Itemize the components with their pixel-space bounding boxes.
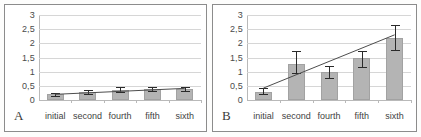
panel-letter-b: B [222,109,231,123]
x-axis-label: fourth [317,111,340,121]
x-axis-label: fifth [355,111,370,121]
figure-sheet: 32,521,510,50 initialsecondfourthfifthsi… [0,0,421,137]
x-axis-tick [313,100,314,103]
x-axis-tick [411,100,412,103]
x-axis-tick [104,100,105,103]
x-axis-label: initial [45,111,66,121]
y-axis-tick-label: 0 [238,96,243,105]
x-axis-tick [201,100,202,103]
plot-area-b [247,15,411,100]
x-axis-label: fifth [145,111,160,121]
x-axis-tick [280,100,281,103]
y-axis-tick-label: 1,5 [230,53,243,62]
x-axis-label: sixth [385,111,404,121]
y-axis-tick-label: 3 [30,11,35,20]
x-axis-label: second [73,111,102,121]
y-axis-tick-label: 1,5 [22,53,35,62]
x-axis-tick [71,100,72,103]
x-axis-labels-b: initialsecondfourthfifthsixth [247,111,412,125]
trend-line [247,15,411,100]
x-axis-label: second [282,111,311,121]
y-axis-tick-label: 2,5 [22,25,35,34]
y-axis-tick-label: 2 [238,39,243,48]
panel-letter-a: A [14,109,23,123]
y-axis-tick-label: 0,5 [22,81,35,90]
gridline [247,100,411,101]
y-axis-tick-label: 1 [238,67,243,76]
x-axis-tick [378,100,379,103]
y-axis-tick-label: 3 [238,11,243,20]
chart-panel-b: 32,521,510,50 initialsecondfourthfifthsi… [212,4,417,132]
chart-panel-a: 32,521,510,50 initialsecondfourthfifthsi… [4,4,207,132]
x-axis-tick [169,100,170,103]
x-axis-tick [136,100,137,103]
y-axis-tick-label: 0,5 [230,81,243,90]
plot-area-a [39,15,201,100]
x-axis-tick [345,100,346,103]
y-axis-tick-label: 1 [30,67,35,76]
y-axis-tick-label: 0 [30,96,35,105]
gridline [39,100,201,101]
x-axis-label: fourth [108,111,131,121]
x-axis-labels-a: initialsecondfourthfifthsixth [39,111,202,125]
trend-line [39,15,201,100]
x-axis-label: initial [253,111,274,121]
y-axis-tick-label: 2 [30,39,35,48]
x-axis-label: sixth [176,111,195,121]
y-axis-tick-label: 2,5 [230,25,243,34]
